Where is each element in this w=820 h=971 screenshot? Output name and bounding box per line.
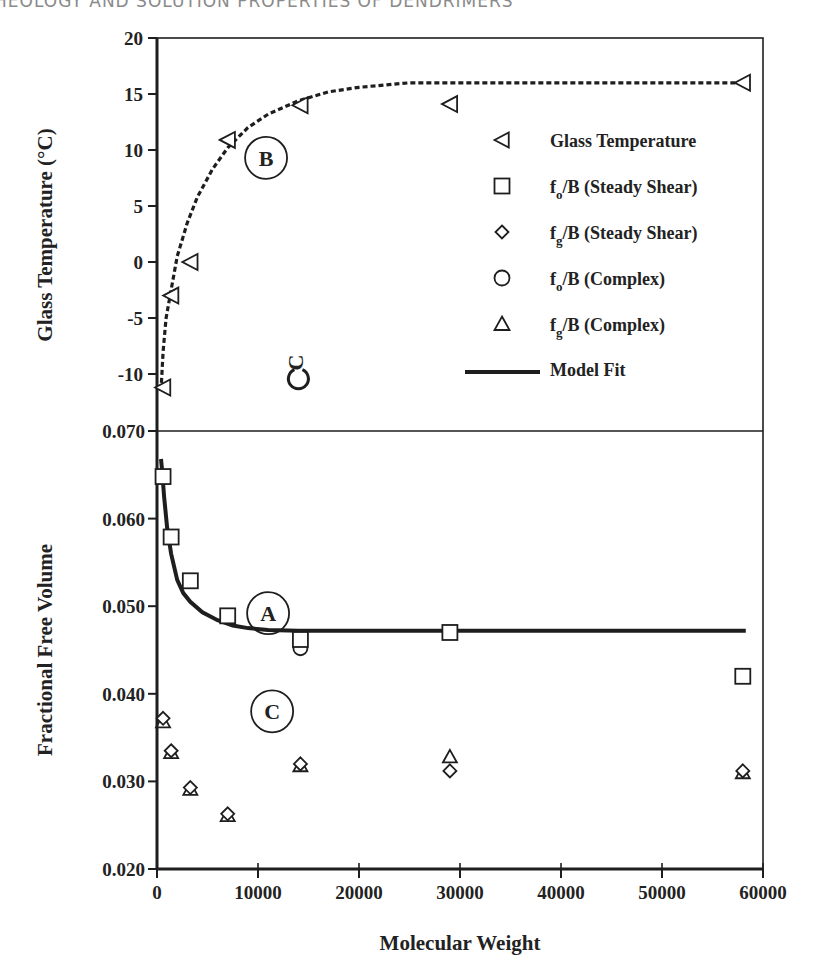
- y-tick-label: 0.020: [102, 859, 145, 880]
- y-tick-label: 15: [124, 84, 143, 105]
- legend-item: Model Fit: [465, 360, 625, 380]
- top-y-axis: 20151050-5-10: [118, 28, 157, 385]
- legend: Glass Temperaturefo/B (Steady Shear)fg/B…: [465, 131, 698, 380]
- y-tick-label: 0.070: [102, 421, 145, 442]
- legend-label: fo/B (Steady Shear): [550, 177, 698, 202]
- triangle-left-marker: [220, 132, 235, 148]
- circle-marker: [495, 271, 510, 286]
- triangle-left-marker: [442, 96, 457, 112]
- triangle-up-marker: [495, 317, 510, 331]
- y-tick-label: 10: [124, 140, 143, 161]
- x-tick-label: 60000: [739, 882, 787, 903]
- legend-label: Glass Temperature: [550, 131, 696, 151]
- legend-item: fo/B (Complex): [495, 269, 666, 294]
- plot-frame: [157, 38, 763, 869]
- annotation-c-rotated: C: [283, 355, 308, 389]
- x-axis-title: Molecular Weight: [380, 931, 541, 955]
- y-tick-label: 0.060: [102, 509, 145, 530]
- y-tick-label: 5: [134, 196, 144, 217]
- legend-item: fg/B (Complex): [495, 315, 666, 340]
- legend-label: fo/B (Complex): [550, 269, 665, 294]
- bottom-y-axis-title: Fractional Free Volume: [33, 544, 57, 756]
- triangle-up-marker: [443, 750, 457, 763]
- annotation-b: B: [259, 146, 274, 171]
- legend-item: fo/B (Steady Shear): [495, 177, 698, 202]
- square-marker: [164, 529, 179, 544]
- y-tick-label: -5: [127, 308, 143, 329]
- x-tick-label: 30000: [436, 882, 484, 903]
- y-tick-label: 20: [124, 28, 143, 49]
- legend-item: fg/B (Steady Shear): [496, 223, 698, 248]
- x-tick-label: 50000: [638, 882, 686, 903]
- triangle-left-marker: [163, 288, 178, 304]
- legend-label: Model Fit: [550, 360, 625, 380]
- rotated-circle-glyph: [288, 370, 308, 389]
- triangle-left-marker: [495, 133, 509, 148]
- annotation-a: A: [260, 601, 276, 626]
- triangle-left-marker: [182, 254, 197, 270]
- legend-label: fg/B (Steady Shear): [550, 223, 698, 248]
- annotation-label: C: [283, 355, 308, 371]
- square-marker: [156, 469, 171, 484]
- y-tick-label: 0.050: [102, 596, 145, 617]
- x-tick-label: 10000: [234, 882, 282, 903]
- square-marker: [183, 573, 198, 588]
- square-marker: [495, 179, 510, 194]
- legend-label: fg/B (Complex): [550, 315, 665, 340]
- top-y-axis-title: Glass Temperature (°C): [33, 128, 57, 341]
- plot-border: [157, 38, 763, 869]
- legend-item: Glass Temperature: [495, 131, 697, 151]
- bottom-panel-series: [156, 459, 751, 821]
- x-tick-label: 40000: [537, 882, 585, 903]
- x-tick-label: 20000: [335, 882, 383, 903]
- square-marker: [442, 625, 457, 640]
- annotation-c: C: [264, 699, 280, 724]
- square-marker: [220, 608, 235, 623]
- chart: 20151050-5-10 0.0700.0600.0500.0400.0300…: [0, 0, 820, 971]
- bottom-y-axis: 0.0700.0600.0500.0400.0300.020: [102, 421, 157, 880]
- y-tick-label: -10: [118, 364, 143, 385]
- diamond-marker: [443, 764, 456, 777]
- y-tick-label: 0.040: [102, 684, 145, 705]
- square-marker: [735, 669, 750, 684]
- square-marker: [293, 632, 308, 647]
- x-tick-label: 0: [152, 882, 162, 903]
- y-tick-label: 0.030: [102, 771, 145, 792]
- triangle-left-marker: [735, 75, 750, 91]
- diamond-marker: [496, 226, 509, 239]
- y-tick-label: 0: [134, 252, 144, 273]
